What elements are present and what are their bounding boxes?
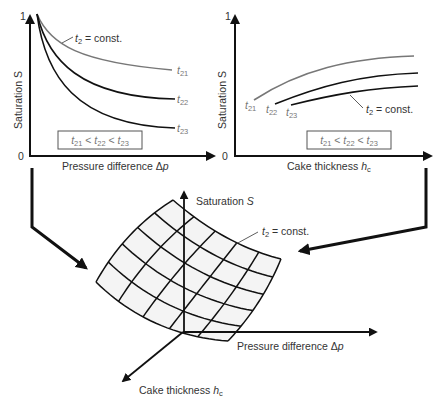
left-label-t21: t21 [177,64,188,78]
figure-canvas: 1 0 Saturation S Pressure difference Δp … [0,0,442,404]
left-y-axis-label: Saturation S [12,71,24,129]
right-annotation: t2 = const. [366,103,413,117]
left-annotation: t2 = const. [75,32,122,46]
right-label-t22: t22 [266,103,277,117]
left-label-t22: t22 [177,93,188,107]
left-x-axis-label: Pressure difference Δp [62,160,169,172]
right-label-t21: t21 [245,99,256,113]
surface-z-axis-label: Saturation S [196,195,254,207]
right-x-axis-label: Cake thickness hc [287,160,371,174]
left-y-tick-1: 1 [20,10,26,22]
right-label-t23: t23 [286,106,297,120]
left-y-tick-0: 0 [18,150,24,162]
surface-y-axis-label: Cake thickness hc [139,384,223,398]
surface-3d: Saturation S Pressure difference Δp Cake… [96,192,376,398]
surface-y-axis [123,332,183,381]
left-label-t23: t23 [177,122,188,136]
right-annotation-leader [350,95,363,108]
right-to-surface-arrow [300,168,426,251]
right-y-axis-label: Saturation S [216,71,228,129]
surface-annotation: t2 = const. [262,225,309,239]
left-annotation-leader [62,37,73,43]
surface-mesh [96,200,281,341]
right-y-tick-1: 1 [225,10,231,22]
left-chart: 1 0 Saturation S Pressure difference Δp … [12,10,214,172]
right-chart: 1 0 Saturation S Cake thickness hc t2 = … [216,10,431,174]
right-y-tick-0: 0 [222,150,228,162]
surface-annotation-leader [236,232,258,244]
surface-x-axis-label: Pressure difference Δp [237,340,344,352]
left-curve-t22 [37,14,175,99]
right-curve-t21 [254,56,414,100]
left-to-surface-arrow [32,168,86,268]
